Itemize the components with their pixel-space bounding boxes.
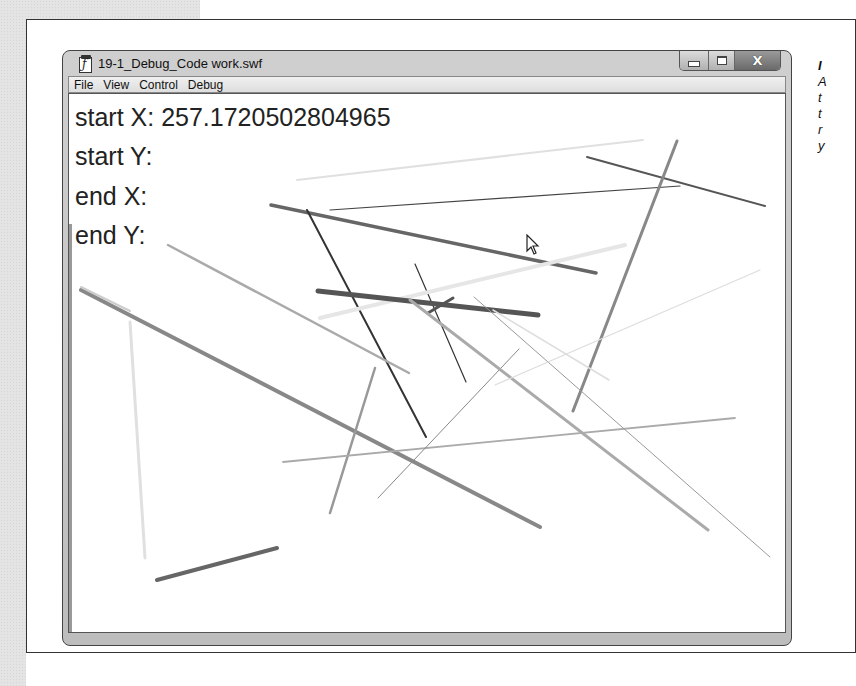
page-margin-left: [0, 0, 26, 686]
caption-buttons: X: [679, 51, 781, 71]
arrow-cursor-icon: [526, 234, 540, 256]
flash-document-icon: [79, 57, 92, 73]
side-caption-line: t: [818, 106, 827, 122]
side-caption-line: y: [818, 138, 827, 154]
side-caption-line: t: [818, 90, 827, 106]
side-caption-line: A: [818, 74, 827, 90]
menu-file[interactable]: File: [74, 78, 93, 92]
minimize-icon: [688, 61, 700, 67]
minimize-button[interactable]: [680, 51, 708, 70]
start-y-readout: start Y:: [75, 144, 152, 169]
flash-player-window: 19-1_Debug_Code work.swf X File View Con…: [62, 50, 792, 646]
menu-view[interactable]: View: [103, 78, 129, 92]
side-caption: I A t t r y: [818, 58, 827, 154]
stage-left-edge: [69, 224, 72, 633]
title-bar[interactable]: 19-1_Debug_Code work.swf X: [63, 51, 791, 77]
swf-stage[interactable]: start X: 257.1720502804965 start Y: end …: [68, 93, 786, 633]
side-caption-line: r: [818, 122, 827, 138]
menu-bar: File View Control Debug: [68, 76, 786, 93]
end-y-readout: end Y:: [75, 223, 145, 248]
close-button[interactable]: X: [734, 51, 780, 70]
start-x-readout: start X: 257.1720502804965: [75, 105, 391, 130]
window-title: 19-1_Debug_Code work.swf: [98, 56, 262, 71]
side-caption-line: I: [818, 58, 827, 74]
menu-control[interactable]: Control: [139, 78, 178, 92]
maximize-icon: [717, 56, 727, 65]
page-margin-top: [0, 0, 200, 19]
menu-debug[interactable]: Debug: [188, 78, 223, 92]
maximize-button[interactable]: [708, 51, 734, 70]
end-x-readout: end X:: [75, 184, 147, 209]
close-icon: X: [752, 53, 762, 68]
